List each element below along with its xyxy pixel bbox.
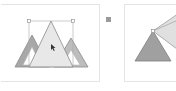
panel-drag-handle-icon[interactable]: [106, 17, 111, 22]
left-canvas-panel[interactable]: [1, 4, 100, 82]
left-triangles-drawing[interactable]: [1, 5, 100, 83]
right-canvas-panel[interactable]: [124, 4, 176, 82]
resize-handle-nw[interactable]: [28, 20, 31, 23]
rotation-handle[interactable]: [152, 30, 155, 33]
right-triangles-drawing[interactable]: [125, 5, 176, 83]
resize-handle-ne[interactable]: [72, 20, 75, 23]
